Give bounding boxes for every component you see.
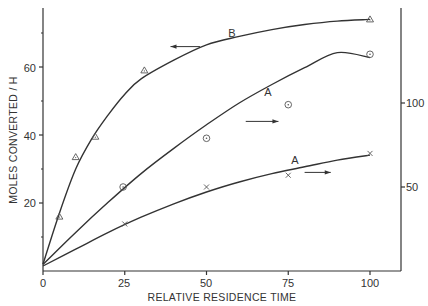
left-y-tick-labels: 20 40 60: [24, 62, 36, 209]
curve-label-b: B: [228, 27, 235, 39]
y-tick-60: 60: [24, 62, 36, 74]
y-tick-40: 40: [24, 130, 36, 142]
curve-label-a-lower: A: [291, 154, 299, 166]
tick-marks: [39, 33, 405, 275]
triangle-marker: [141, 67, 148, 73]
cross-marker: [286, 173, 291, 178]
circle-marker-dot: [369, 53, 371, 55]
triangle-marker-dot: [144, 70, 145, 71]
y2-tick-50: 50: [406, 181, 418, 193]
circle-marker-dot: [287, 104, 289, 106]
x-axis-title: RELATIVE RESIDENCE TIME: [148, 291, 297, 303]
arrow-right-icon: [272, 119, 278, 123]
triangle-marker-dot: [59, 217, 60, 218]
x-tick-labels: 0 25 50 75 100: [40, 277, 379, 289]
curve-a-upper-: [43, 52, 370, 264]
curve-a-lower-: [43, 155, 370, 266]
y-tick-20: 20: [24, 197, 36, 209]
arrow-right-icon: [325, 170, 331, 174]
circle-marker-dot: [122, 186, 124, 188]
axis-arrows: [171, 44, 331, 174]
x-tick-50: 50: [200, 277, 212, 289]
circle-marker-dot: [206, 137, 208, 139]
y2-tick-100: 100: [406, 97, 424, 109]
triangle-marker-dot: [75, 157, 76, 158]
curves: [43, 19, 370, 266]
chart: 0 25 50 75 100 20 40 60 50 100 RELATIVE …: [0, 0, 428, 306]
triangle-marker: [72, 154, 79, 160]
x-tick-25: 25: [118, 277, 130, 289]
y-axis-title: MOLES CONVERTED / H: [7, 76, 19, 203]
right-y-tick-labels: 50 100: [406, 97, 424, 193]
x-tick-0: 0: [40, 277, 46, 289]
arrow-left-icon: [171, 44, 177, 48]
curve-label-a-upper: A: [264, 86, 272, 98]
x-tick-75: 75: [282, 277, 294, 289]
triangle-marker-dot: [369, 19, 370, 20]
triangle-marker-dot: [95, 137, 96, 138]
x-tick-100: 100: [361, 277, 379, 289]
cross-marker: [204, 185, 209, 190]
